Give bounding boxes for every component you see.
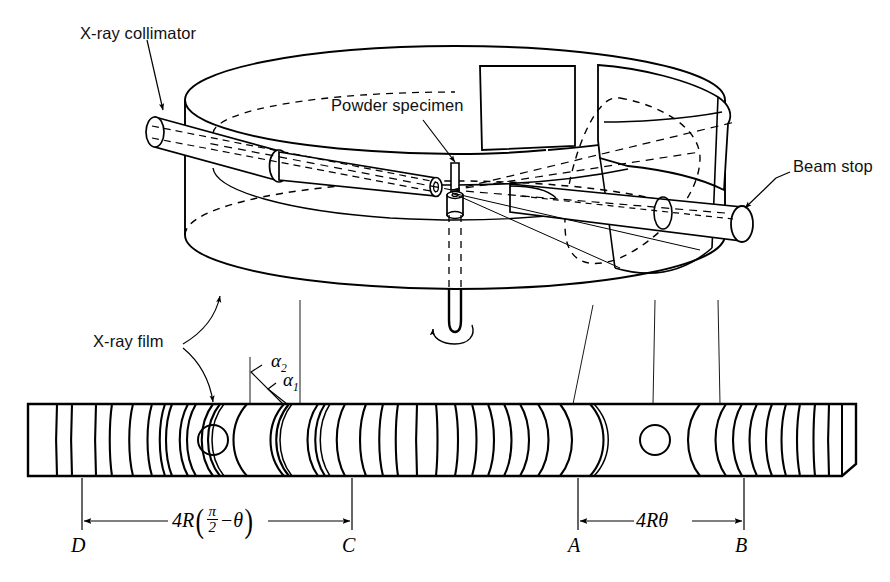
beam-stop-barrel — [510, 184, 742, 241]
film-mark-B: B — [735, 534, 747, 557]
leader-collimator — [147, 40, 163, 110]
cylinder-bottom-rim-front — [185, 235, 725, 289]
dim-left-minus: − — [221, 509, 232, 532]
x-ray-collimator — [146, 117, 442, 197]
leader-specimen — [423, 120, 455, 162]
leader-beam-stop — [745, 178, 776, 208]
film-mark-C: C — [342, 534, 355, 557]
spindle-shaft — [449, 289, 461, 332]
leader-film-upper — [183, 296, 220, 344]
powder-camera-figure — [0, 0, 890, 582]
rotation-arrow — [433, 325, 473, 344]
label-alpha-1: α1 — [283, 369, 299, 393]
film-mark-D: D — [71, 534, 85, 557]
diffraction-line — [56, 404, 57, 476]
dim-left-theta: θ — [233, 509, 243, 532]
cutaway-window-left — [480, 66, 575, 150]
collimator-left-cap — [146, 117, 164, 147]
dim-left-close-paren: ) — [245, 507, 253, 534]
collimator-barrel — [155, 117, 279, 181]
label-x-ray-film: X-ray film — [93, 332, 164, 351]
label-beam-stop: Beam stop — [793, 157, 873, 176]
projection-line-2 — [653, 300, 655, 404]
leader-film-lower — [183, 348, 213, 402]
beam-stop-end-cap — [731, 206, 753, 242]
label-x-ray-collimator: X-ray collimator — [80, 24, 196, 43]
diffraction-line — [95, 404, 96, 476]
dim-left-numerator: π — [207, 504, 219, 519]
leader-beam-stop-tick — [776, 172, 790, 178]
dimension-label-left: 4R ( π 2 − θ ) — [172, 505, 255, 537]
label-powder-specimen: Powder specimen — [331, 96, 464, 115]
projection-lines — [250, 300, 720, 404]
film-hole-right — [640, 425, 670, 455]
diffraction-line — [828, 404, 829, 476]
dim-left-open-paren: ( — [196, 507, 204, 534]
dimension-label-right: 4Rθ — [636, 509, 668, 532]
film-strip — [28, 404, 856, 476]
beam-stop — [510, 184, 753, 242]
diffraction-line — [416, 404, 417, 476]
projection-line-3 — [718, 300, 720, 404]
film-mark-A: A — [568, 534, 580, 557]
dim-left-fraction: π 2 — [207, 504, 219, 536]
dim-left-denominator: 2 — [207, 519, 219, 535]
dim-left-prefix: 4R — [172, 509, 194, 532]
film-strip-outline — [28, 404, 856, 476]
diffraction-line — [71, 404, 72, 476]
collimator-inner-tube — [279, 152, 436, 196]
projection-line-1 — [573, 305, 593, 404]
